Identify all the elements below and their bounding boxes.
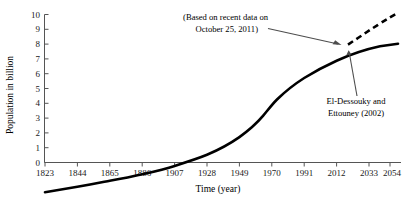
x-tick-label-1970: 1970 xyxy=(263,168,282,178)
annotation-reference-line2: Ettouney (2002) xyxy=(328,108,384,118)
x-tick-label-2012: 2012 xyxy=(328,168,346,178)
y-tick-label-1: 1 xyxy=(36,143,41,153)
annotation-recent-data-leader xyxy=(268,29,338,45)
population-growth-chart: 0 1 2 3 4 5 6 7 8 9 10 1823 1844 1865 18… xyxy=(0,0,407,208)
y-tick-label-4: 4 xyxy=(36,98,41,108)
plot-axes xyxy=(45,15,402,163)
x-tick-label-2033: 2033 xyxy=(360,168,379,178)
x-tick-marks xyxy=(45,163,390,167)
y-tick-label-3: 3 xyxy=(36,113,41,123)
x-tick-label-1844: 1844 xyxy=(68,168,87,178)
y-tick-label-6: 6 xyxy=(36,69,41,79)
x-tick-labels: 1823 1844 1865 1886 1907 1928 1949 1970 … xyxy=(36,168,402,178)
annotation-recent-data: (Based on recent data on October 25, 201… xyxy=(183,12,341,45)
x-tick-label-1928: 1928 xyxy=(198,168,217,178)
y-tick-label-0: 0 xyxy=(36,158,41,168)
annotation-recent-data-line1: (Based on recent data on xyxy=(183,12,269,22)
annotation-reference-line1: El-Dessouky and xyxy=(327,96,387,106)
y-axis-title: Population in billion xyxy=(5,56,15,134)
annotation-recent-data-line2: October 25, 2011) xyxy=(196,24,259,34)
x-tick-label-1949: 1949 xyxy=(230,168,249,178)
y-tick-label-5: 5 xyxy=(36,84,41,94)
annotation-recent-data-arrowhead xyxy=(333,40,342,45)
series-el-dessouky-projection-dashed xyxy=(348,13,398,45)
y-tick-label-7: 7 xyxy=(36,54,41,64)
x-tick-label-1823: 1823 xyxy=(36,168,55,178)
x-tick-label-1865: 1865 xyxy=(101,168,120,178)
y-tick-marks xyxy=(45,15,49,163)
y-tick-label-8: 8 xyxy=(36,39,41,49)
x-tick-label-1991: 1991 xyxy=(295,168,313,178)
y-tick-label-10: 10 xyxy=(31,10,41,20)
x-axis-title: Time (year) xyxy=(196,184,241,195)
x-tick-label-2054: 2054 xyxy=(383,168,402,178)
annotation-reference-leader xyxy=(350,54,358,96)
y-tick-labels: 0 1 2 3 4 5 6 7 8 9 10 xyxy=(31,10,41,168)
y-tick-label-2: 2 xyxy=(36,128,41,138)
y-tick-label-9: 9 xyxy=(36,24,41,34)
